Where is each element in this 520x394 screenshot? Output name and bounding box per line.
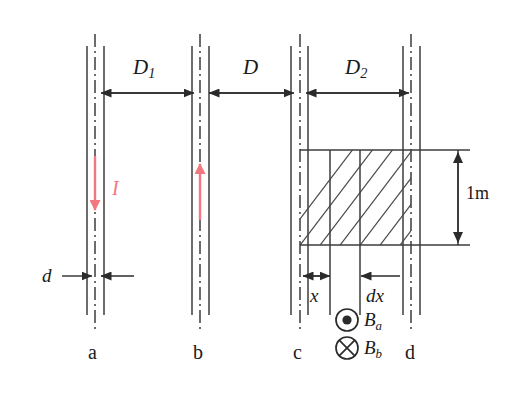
node-label-d: d <box>405 341 415 364</box>
node-label-b: b <box>193 341 203 364</box>
node-label-a: a <box>88 341 97 364</box>
thickness-label-d: d <box>42 265 52 287</box>
dimension-label-D1: D1 <box>133 55 155 82</box>
node-label-c: c <box>293 341 302 364</box>
field-label-ba: Ba <box>364 309 382 334</box>
field-symbol-bb <box>336 337 358 359</box>
height-label-1m: 1m <box>466 183 489 204</box>
diagram-svg <box>0 0 520 394</box>
element-label-dx: dx <box>366 285 384 307</box>
conductor-d <box>403 34 420 330</box>
dimension-label-D: D <box>243 55 258 80</box>
current-arrows <box>95 156 200 220</box>
field-symbol-ba <box>336 309 358 331</box>
field-label-bb: Bb <box>364 337 382 362</box>
current-label-I: I <box>112 177 119 200</box>
figure-canvas: D1 D D2 I d x dx 1m Ba Bb a b c d <box>0 0 520 394</box>
conductor-c <box>291 34 308 330</box>
element-label-x: x <box>310 285 318 307</box>
dimension-label-D2: D2 <box>345 55 367 82</box>
